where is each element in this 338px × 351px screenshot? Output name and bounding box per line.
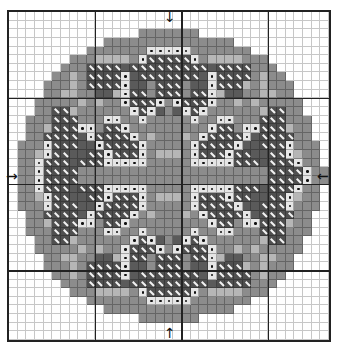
stitch-cell bbox=[78, 38, 87, 47]
stitch-cell bbox=[26, 323, 35, 332]
stitch-cell bbox=[199, 21, 208, 30]
stitch-cell bbox=[182, 314, 191, 323]
stitch-cell bbox=[78, 211, 87, 220]
stitch-cell bbox=[35, 185, 44, 194]
stitch-cell bbox=[44, 167, 53, 176]
stitch-cell bbox=[217, 141, 226, 150]
stitch-cell bbox=[277, 72, 286, 81]
stitch-cell bbox=[61, 64, 70, 73]
stitch-cell bbox=[147, 167, 156, 176]
stitch-cell bbox=[234, 185, 243, 194]
stitch-cell bbox=[234, 150, 243, 159]
stitch-cell bbox=[208, 12, 217, 21]
stitch-cell bbox=[243, 236, 252, 245]
stitch-cell bbox=[234, 38, 243, 47]
stitch-cell bbox=[294, 12, 303, 21]
stitch-cell bbox=[208, 245, 217, 254]
stitch-cell bbox=[234, 323, 243, 332]
stitch-cell bbox=[320, 236, 329, 245]
stitch-cell bbox=[113, 254, 122, 263]
stitch-cell bbox=[104, 314, 113, 323]
stitch-cell bbox=[130, 280, 139, 289]
stitch-cell bbox=[26, 228, 35, 237]
stitch-cell bbox=[139, 167, 148, 176]
stitch-cell bbox=[217, 228, 226, 237]
stitch-cell bbox=[208, 288, 217, 297]
stitch-cell bbox=[199, 150, 208, 159]
stitch-cell bbox=[35, 12, 44, 21]
stitch-cell bbox=[243, 116, 252, 125]
stitch-cell bbox=[217, 245, 226, 254]
stitch-cell bbox=[320, 288, 329, 297]
stitch-cell bbox=[217, 64, 226, 73]
stitch-cell bbox=[95, 167, 104, 176]
stitch-cell bbox=[78, 228, 87, 237]
stitch-cell bbox=[9, 64, 18, 73]
stitch-cell bbox=[9, 185, 18, 194]
stitch-cell bbox=[268, 47, 277, 56]
stitch-cell bbox=[18, 193, 27, 202]
stitch-cell bbox=[225, 47, 234, 56]
stitch-cell bbox=[277, 219, 286, 228]
stitch-cell bbox=[35, 305, 44, 314]
stitch-cell bbox=[95, 98, 104, 107]
stitch-cell bbox=[44, 236, 53, 245]
stitch-cell bbox=[130, 245, 139, 254]
stitch-cell bbox=[52, 55, 61, 64]
stitch-cell bbox=[268, 219, 277, 228]
stitch-cell bbox=[52, 228, 61, 237]
stitch-cell bbox=[286, 167, 295, 176]
stitch-cell bbox=[294, 219, 303, 228]
stitch-cell bbox=[191, 314, 200, 323]
stitch-cell bbox=[251, 323, 260, 332]
stitch-cell bbox=[156, 159, 165, 168]
stitch-cell bbox=[147, 133, 156, 142]
stitch-cell bbox=[52, 81, 61, 90]
stitch-cell bbox=[286, 81, 295, 90]
stitch-cell bbox=[113, 116, 122, 125]
stitch-cell bbox=[139, 133, 148, 142]
stitch-cell bbox=[199, 331, 208, 340]
stitch-cell bbox=[70, 271, 79, 280]
stitch-cell bbox=[234, 228, 243, 237]
stitch-cell bbox=[9, 72, 18, 81]
stitch-cell bbox=[294, 280, 303, 289]
stitch-cell bbox=[191, 47, 200, 56]
stitch-cell bbox=[217, 314, 226, 323]
stitch-cell bbox=[104, 280, 113, 289]
stitch-cell bbox=[268, 254, 277, 263]
stitch-cell bbox=[78, 323, 87, 332]
stitch-cell bbox=[156, 29, 165, 38]
stitch-cell bbox=[234, 211, 243, 220]
stitch-cell bbox=[95, 150, 104, 159]
stitch-cell bbox=[217, 98, 226, 107]
stitch-cell bbox=[78, 167, 87, 176]
stitch-cell bbox=[294, 159, 303, 168]
stitch-cell bbox=[104, 64, 113, 73]
stitch-cell bbox=[268, 124, 277, 133]
stitch-cell bbox=[121, 297, 130, 306]
stitch-cell bbox=[70, 297, 79, 306]
stitch-cell bbox=[165, 254, 174, 263]
stitch-cell bbox=[95, 228, 104, 237]
stitch-cell bbox=[225, 116, 234, 125]
stitch-cell bbox=[294, 288, 303, 297]
stitch-cell bbox=[113, 236, 122, 245]
stitch-cell bbox=[121, 107, 130, 116]
stitch-cell bbox=[286, 193, 295, 202]
stitch-cell bbox=[294, 64, 303, 73]
stitch-cell bbox=[217, 323, 226, 332]
stitch-cell bbox=[52, 331, 61, 340]
stitch-cell bbox=[191, 29, 200, 38]
stitch-cell bbox=[294, 211, 303, 220]
stitch-cell bbox=[286, 305, 295, 314]
stitch-cell bbox=[35, 297, 44, 306]
stitch-cell bbox=[251, 64, 260, 73]
stitch-cell bbox=[217, 297, 226, 306]
stitch-cell bbox=[182, 331, 191, 340]
stitch-cell bbox=[61, 107, 70, 116]
stitch-cell bbox=[191, 21, 200, 30]
stitch-cell bbox=[61, 314, 70, 323]
stitch-cell bbox=[78, 116, 87, 125]
stitch-cell bbox=[251, 185, 260, 194]
